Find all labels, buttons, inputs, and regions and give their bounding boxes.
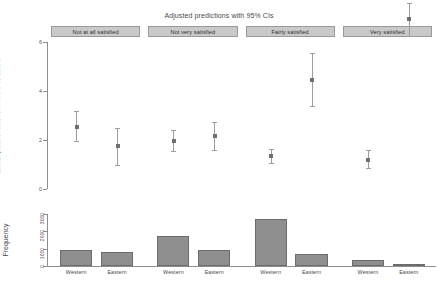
upper-y-tick: [43, 189, 47, 190]
ci-upper-cap: [407, 3, 412, 4]
chart-title: Adjusted predictions with 95% CIs: [0, 12, 438, 19]
ci-lower-cap: [310, 106, 315, 107]
prediction-point-marker: [172, 139, 176, 143]
panel-strip-label: Fairly satisfied: [271, 29, 308, 35]
frequency-bar: [352, 260, 384, 266]
upper-y-tick-label: 2: [30, 137, 42, 143]
ci-lower-cap: [212, 150, 217, 151]
ci-lower-cap: [171, 151, 176, 152]
prediction-point-marker: [116, 144, 120, 148]
frequency-bar: [393, 264, 425, 266]
x-category-label: Eastern: [302, 269, 321, 275]
ci-lower-cap: [269, 163, 274, 164]
ci-lower-cap: [366, 168, 371, 169]
frequency-bar: [101, 252, 133, 266]
ci-upper-cap: [269, 149, 274, 150]
prediction-point-marker: [75, 125, 79, 129]
ci-lower-cap: [115, 165, 120, 166]
ci-upper-cap: [171, 130, 176, 131]
panel-strip-label: Very satisfied: [370, 29, 405, 35]
ci-upper-cap: [74, 111, 79, 112]
frequency-bar: [295, 254, 327, 266]
ci-lower-cap: [407, 36, 412, 37]
panel-strip-not-very-satisfied: Not very satisfied: [148, 26, 237, 37]
panel-strip-not-at-all-satisfied: Not at all satisfied: [51, 26, 140, 37]
lower-plot-baseline: [47, 266, 436, 267]
panel-strip-label: Not at all satisfied: [73, 29, 119, 35]
x-category-label: Eastern: [205, 269, 224, 275]
x-category-label: Western: [163, 269, 184, 275]
x-category-label: Western: [358, 269, 379, 275]
lower-plot-y-axis-label: Frequency: [2, 214, 14, 266]
upper-y-tick-label: 4: [30, 88, 42, 94]
lower-plot-area: [47, 214, 436, 266]
prediction-point-marker: [310, 78, 314, 82]
upper-y-tick-label: 6: [30, 39, 42, 45]
x-category-label: Eastern: [107, 269, 126, 275]
ci-lower-cap: [74, 141, 79, 142]
ci-upper-cap: [366, 150, 371, 151]
lower-y-tick-label: 3000: [39, 213, 45, 235]
ci-upper-cap: [115, 128, 120, 129]
x-category-label: Eastern: [399, 269, 418, 275]
panel-strip-label: Not very satisfied: [171, 29, 216, 35]
prediction-point-marker: [366, 158, 370, 162]
x-category-label: Western: [260, 269, 281, 275]
prediction-point-marker: [269, 154, 273, 158]
prediction-point-marker: [213, 134, 217, 138]
upper-plot-area: [47, 42, 436, 189]
ci-upper-cap: [310, 53, 315, 54]
upper-plot-y-axis-label: Linear pred. of vote for PRRPs vs others: [0, 42, 6, 189]
prediction-point-marker: [407, 17, 411, 21]
ci-upper-cap: [212, 122, 217, 123]
panel-strip-fairly-satisfied: Fairly satisfied: [246, 26, 335, 37]
figure-canvas: Adjusted predictions with 95% CIs Not at…: [0, 0, 438, 291]
frequency-bar: [60, 250, 92, 266]
frequency-bar: [198, 250, 230, 266]
x-category-label: Western: [66, 269, 87, 275]
panel-strip-very-satisfied: Very satisfied: [343, 26, 432, 37]
upper-y-tick-label: 0: [30, 186, 42, 192]
frequency-bar: [255, 219, 287, 266]
frequency-bar: [157, 236, 189, 267]
